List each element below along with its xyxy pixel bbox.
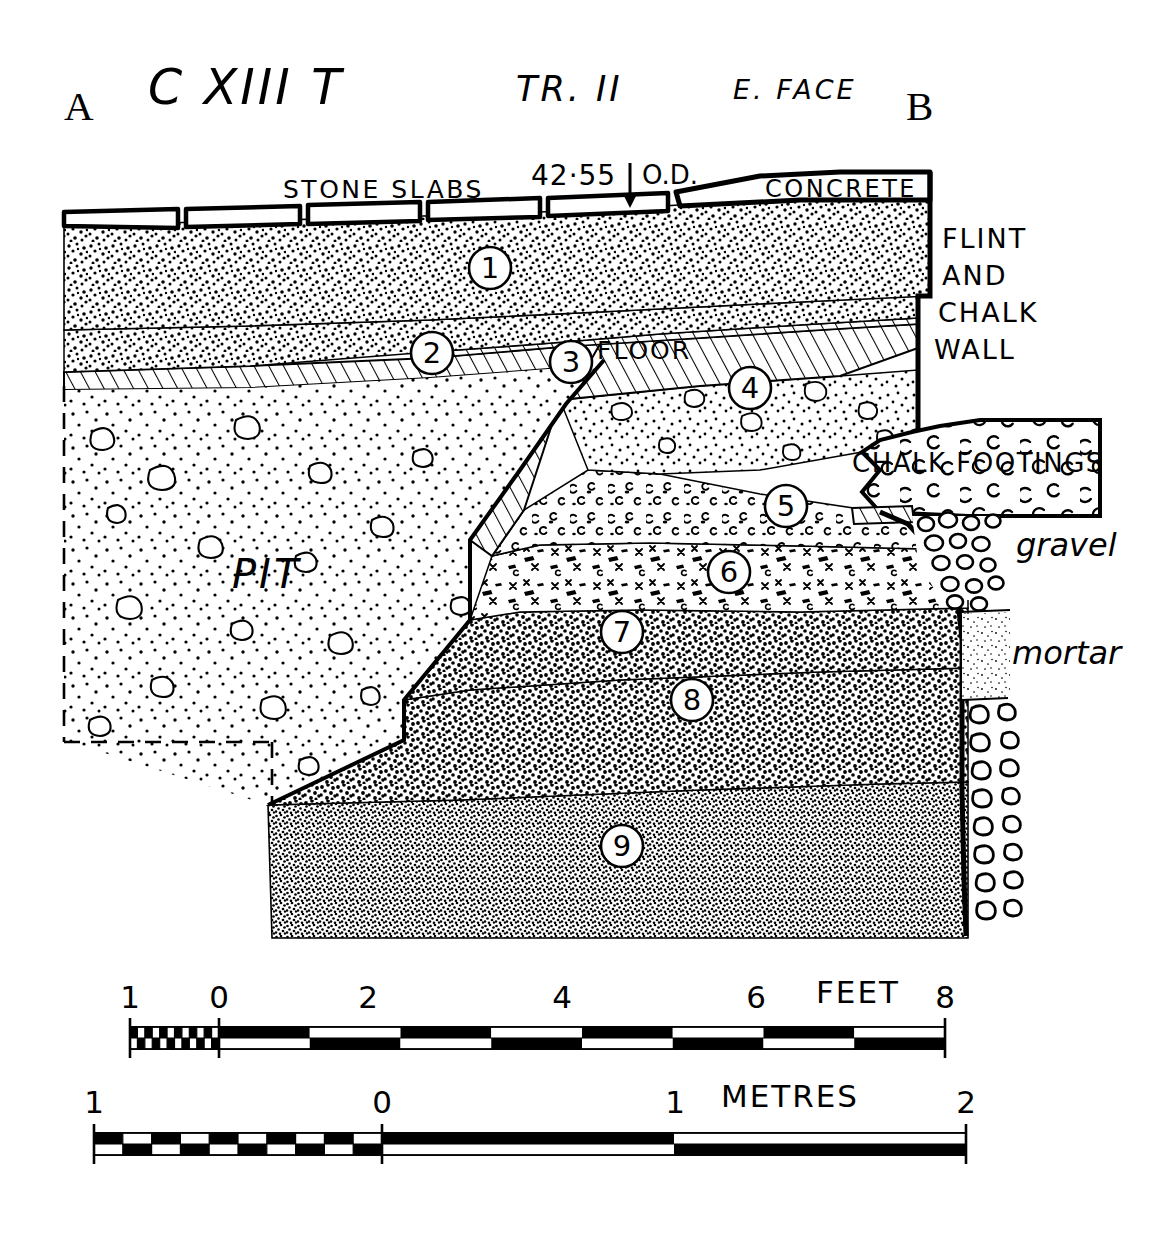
scale-subblock [175,1027,182,1038]
scale-subblock [152,1038,159,1049]
layer-number-text: 2 [423,336,441,370]
scale-subblock [296,1133,325,1144]
scale-subblock [197,1027,204,1038]
scale-subblock [137,1027,144,1038]
scale-subblock [204,1038,211,1049]
scale-unit-label: FEET [816,974,900,1010]
scale-block [382,1133,674,1144]
scale-tick-label: 2 [358,979,378,1015]
scale-block [382,1144,674,1155]
title-main: C XIII T [148,59,345,116]
scale-subblock [180,1133,209,1144]
scale-subblock [145,1027,152,1038]
scale-block [582,1038,673,1049]
scale-subblock [123,1144,152,1155]
scale-block [674,1144,966,1155]
layer-number-5: 5 [765,485,807,527]
scale-block [854,1038,945,1049]
label-mortar: mortar [1012,634,1123,672]
scale-block [219,1038,310,1049]
scale-block [764,1038,855,1049]
label-concrete: CONCRETE [765,175,917,203]
layer-number-6: 6 [708,551,750,593]
scale-subblock [94,1144,123,1155]
scale-subblock [197,1038,204,1049]
scale-block [491,1027,582,1038]
scale-subblock [189,1038,196,1049]
scale-subblock [160,1038,167,1049]
scale-block [219,1027,310,1038]
scale-block [491,1038,582,1049]
layer-number-text: 6 [720,555,738,589]
scale-subblock [324,1133,353,1144]
scale-subblock [152,1027,159,1038]
scale-subblock [238,1133,267,1144]
scale-subblock [324,1144,353,1155]
scale-subblock [167,1038,174,1049]
section-drawing-figure: A C XIII T TR. II E. FACE B [0,0,1151,1235]
scale-block [764,1027,855,1038]
scale-subblock [353,1144,382,1155]
layer-number-text: 5 [777,489,795,523]
scale-subblock [204,1027,211,1038]
scale-block [401,1027,492,1038]
layer-number-text: 1 [481,251,499,285]
layer-number-9: 9 [601,825,643,867]
scale-subblock [137,1038,144,1049]
scale-subblock [123,1133,152,1144]
scale-tick-label: 4 [552,979,572,1015]
scale-subblock [189,1027,196,1038]
end-marker-left: A [64,83,94,129]
scale-block [673,1038,764,1049]
end-marker-right: B [906,83,933,129]
scale-subblock [296,1144,325,1155]
scale-block [854,1027,945,1038]
layer-number-8: 8 [671,679,713,721]
scale-subblock [175,1038,182,1049]
scale-subblock [145,1038,152,1049]
title-face: E. FACE [733,74,857,105]
scale-block [673,1027,764,1038]
scale-tick-label: 6 [746,979,766,1015]
label-wall-line-2: AND [942,260,1007,291]
scale-subblock [353,1133,382,1144]
scale-subblock [180,1144,209,1155]
scale-block [310,1038,401,1049]
scale-subblock [267,1144,296,1155]
layer-number-text: 8 [683,683,701,717]
scale-block [401,1038,492,1049]
scale-tick-label: 0 [209,979,229,1015]
layer-number-4: 4 [729,367,771,409]
scale-tick-label: 0 [372,1084,392,1120]
layer-number-text: 3 [562,345,580,379]
scale-subblock [160,1027,167,1038]
label-wall-line-4: WALL [934,334,1016,365]
scale-block [582,1027,673,1038]
layer-number-text: 7 [613,615,631,649]
scale-subblock [152,1133,181,1144]
scale-subblock [182,1027,189,1038]
scale-block [310,1027,401,1038]
layer-number-text: 9 [613,829,631,863]
label-datum-unit: O.D. [642,160,698,190]
label-stone-slabs: STONE SLABS [283,175,484,204]
mortar-zone [962,612,1010,700]
scale-tick-label: 1 [120,979,140,1015]
scale-tick-label: 8 [935,979,955,1015]
scale-tick-label: 1 [665,1084,685,1120]
label-wall-line-3: CHALK [938,297,1038,328]
scale-block [674,1133,966,1144]
label-floor: FLOOR [597,336,691,365]
layer-number-text: 4 [741,371,759,405]
scale-subblock [152,1144,181,1155]
scale-unit-label: METRES [721,1078,859,1114]
label-pit: PIT [232,551,302,597]
section-drawing-canvas: A C XIII T TR. II E. FACE B [0,0,1151,1235]
scale-subblock [167,1027,174,1038]
scale-tick-label: 1 [84,1084,104,1120]
scale-subblock [267,1133,296,1144]
label-wall-line-1: FLINT [942,223,1027,254]
scale-subblock [182,1038,189,1049]
layer-number-7: 7 [601,611,643,653]
label-datum-value: 42·55 [531,159,616,192]
